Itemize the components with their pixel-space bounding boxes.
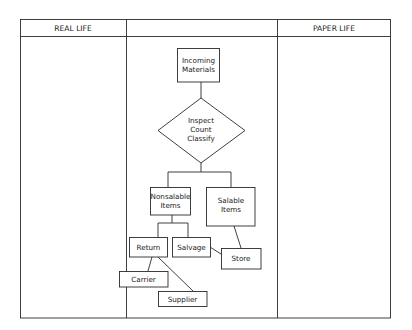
store-label: Store: [232, 254, 252, 263]
salable-line-1: Salable: [218, 196, 245, 205]
nonsalable-line-1: Nonsalable: [151, 192, 191, 201]
nonsalable-line-2: Items: [160, 201, 180, 210]
node-supplier: Supplier: [159, 292, 208, 307]
node-carrier: Carrier: [120, 272, 169, 288]
node-return: Return: [130, 238, 168, 258]
salable-line-2: Items: [221, 205, 241, 214]
node-salable-items: Salable Items: [207, 188, 256, 227]
carrier-label: Carrier: [131, 275, 156, 284]
node-incoming-materials: Incoming Materials: [178, 49, 220, 83]
connector-return-carrier: [148, 257, 152, 271]
decision-line-3: Classify: [187, 134, 215, 143]
salvage-label: Salvage: [177, 243, 206, 252]
node-inspect-decision: Inspect Count Classify: [158, 98, 245, 163]
header-paper-life: PAPER LIFE: [313, 24, 355, 33]
decision-line-1: Inspect: [188, 116, 214, 125]
node-store: Store: [222, 249, 262, 270]
flowchart-diagram: REAL LIFE PAPER LIFE Incoming Materials …: [0, 0, 412, 330]
connector-salvage-store: [210, 247, 221, 254]
node-nonsalable-items: Nonsalable Items: [151, 188, 192, 216]
supplier-label: Supplier: [168, 295, 198, 304]
header-real-life: REAL LIFE: [54, 24, 92, 33]
return-label: Return: [137, 243, 161, 252]
incoming-line-1: Incoming: [182, 56, 215, 65]
incoming-line-2: Materials: [182, 65, 215, 74]
decision-line-2: Count: [190, 125, 212, 134]
connector-salable-store: [234, 226, 241, 248]
node-salvage: Salvage: [173, 238, 211, 258]
